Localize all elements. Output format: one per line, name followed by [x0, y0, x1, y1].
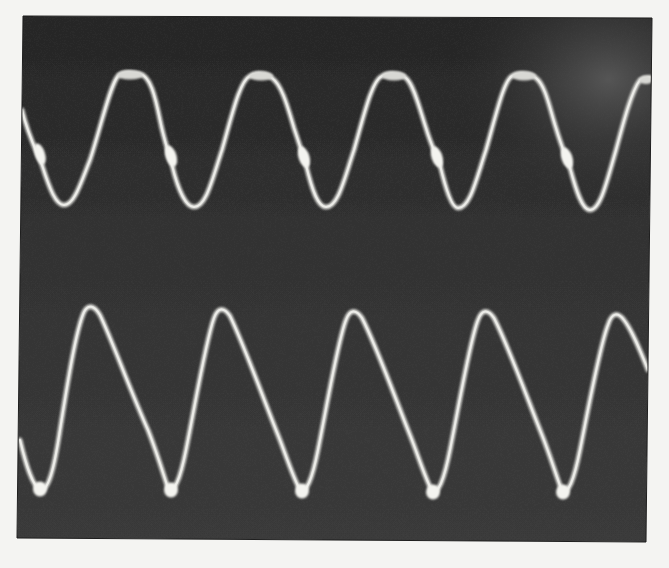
crt-screen	[17, 16, 654, 543]
oscilloscope-photo	[0, 0, 669, 568]
